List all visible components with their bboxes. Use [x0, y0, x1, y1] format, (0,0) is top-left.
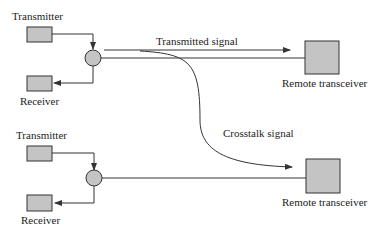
bottom-hybrid-to-rx-line — [55, 186, 94, 203]
bottom-receiver-label: Receiver — [21, 214, 60, 226]
crosstalk-signal-arrow — [140, 51, 292, 167]
top-hybrid-to-rx-line — [54, 66, 93, 83]
bottom-tx-to-hybrid-line — [52, 153, 94, 170]
top-transmitter-box — [27, 27, 52, 42]
top-tx-to-hybrid-line — [52, 34, 93, 49]
bottom-unit: Transmitter Receiver Remote transceiver — [16, 129, 368, 226]
bottom-hybrid-circle — [86, 170, 102, 186]
top-remote-transceiver-label: Remote transceiver — [282, 77, 368, 89]
bottom-transmitter-box — [27, 146, 52, 161]
crosstalk-diagram: Transmitter Receiver Transmitted signal … — [0, 0, 381, 234]
crosstalk-signal-label: Crosstalk signal — [223, 127, 294, 139]
top-receiver-label: Receiver — [20, 95, 59, 107]
bottom-receiver-box — [27, 195, 52, 211]
bottom-remote-transceiver-box — [306, 159, 340, 193]
top-unit: Transmitter Receiver Transmitted signal … — [12, 10, 368, 107]
bottom-transmitter-label: Transmitter — [16, 129, 67, 141]
top-remote-transceiver-box — [305, 41, 339, 74]
bottom-remote-transceiver-label: Remote transceiver — [282, 196, 368, 208]
top-transmitter-label: Transmitter — [12, 10, 63, 22]
transmitted-signal-label: Transmitted signal — [156, 35, 238, 47]
top-hybrid-circle — [85, 50, 101, 66]
top-receiver-box — [27, 76, 52, 91]
